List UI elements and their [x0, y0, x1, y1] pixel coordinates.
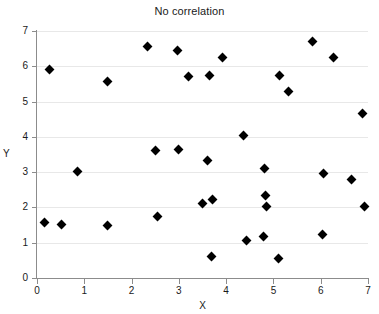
data-point: [347, 175, 357, 185]
data-point: [173, 145, 183, 155]
x-tick-mark-3: [179, 279, 180, 284]
y-tick-label-3: 3: [6, 167, 28, 177]
data-point: [173, 45, 183, 55]
y-tick-label-6: 6: [6, 61, 28, 71]
data-point: [261, 190, 271, 200]
gridline-y-7: [37, 31, 368, 32]
data-point: [261, 201, 271, 211]
y-tick-mark-6: [32, 66, 37, 67]
data-point: [142, 41, 152, 51]
x-tick-mark-1: [84, 279, 85, 284]
x-axis-line: [36, 278, 369, 279]
data-point: [328, 53, 338, 63]
data-point: [103, 220, 113, 230]
data-point: [207, 195, 217, 205]
data-point: [242, 236, 252, 246]
data-point: [103, 77, 113, 87]
data-point: [39, 218, 49, 228]
x-tick-mark-7: [368, 279, 369, 284]
y-tick-label-2: 2: [6, 202, 28, 212]
y-tick-mark-2: [32, 207, 37, 208]
y-tick-mark-4: [32, 137, 37, 138]
gridline-y-6: [37, 66, 368, 67]
x-tick-mark-6: [321, 279, 322, 284]
data-point: [357, 108, 367, 118]
y-tick-label-4: 4: [6, 132, 28, 142]
y-tick-label-0: 0: [6, 273, 28, 283]
y-tick-mark-5: [32, 102, 37, 103]
data-point: [307, 36, 317, 46]
x-tick-label-4: 4: [214, 286, 238, 296]
plot-area: [37, 31, 368, 278]
y-tick-mark-3: [32, 172, 37, 173]
y-tick-label-5: 5: [6, 97, 28, 107]
gridline-y-4: [37, 137, 368, 138]
data-point: [151, 146, 161, 156]
x-tick-mark-2: [132, 279, 133, 284]
scatter-chart: No correlation 01234567 Y X 01234567: [0, 0, 379, 314]
data-point: [205, 70, 215, 80]
y-tick-mark-7: [32, 31, 37, 32]
x-tick-label-1: 1: [72, 286, 96, 296]
x-tick-mark-4: [226, 279, 227, 284]
gridline-y-1: [37, 243, 368, 244]
x-tick-label-6: 6: [309, 286, 333, 296]
data-point: [184, 72, 194, 82]
y-axis-line: [36, 30, 37, 279]
x-tick-label-5: 5: [261, 286, 285, 296]
data-point: [258, 231, 268, 241]
data-point: [317, 230, 327, 240]
data-point: [218, 53, 228, 63]
y-tick-label-1: 1: [6, 238, 28, 248]
gridline-y-5: [37, 102, 368, 103]
y-axis-label: Y: [3, 148, 10, 159]
data-point: [273, 253, 283, 263]
x-tick-label-7: 7: [356, 286, 379, 296]
data-point: [283, 87, 293, 97]
x-tick-label-2: 2: [120, 286, 144, 296]
x-axis-label: X: [37, 300, 368, 311]
data-point: [72, 166, 82, 176]
data-point: [57, 219, 67, 229]
y-tick-label-7: 7: [6, 26, 28, 36]
x-tick-mark-0: [37, 279, 38, 284]
chart-title: No correlation: [0, 5, 379, 17]
data-point: [359, 202, 369, 212]
data-point: [238, 130, 248, 140]
x-tick-label-0: 0: [25, 286, 49, 296]
data-point: [274, 71, 284, 81]
data-point: [318, 168, 328, 178]
data-point: [203, 156, 213, 166]
y-tick-mark-1: [32, 243, 37, 244]
x-tick-label-3: 3: [167, 286, 191, 296]
data-point: [153, 211, 163, 221]
data-point: [207, 252, 217, 262]
x-tick-mark-5: [273, 279, 274, 284]
